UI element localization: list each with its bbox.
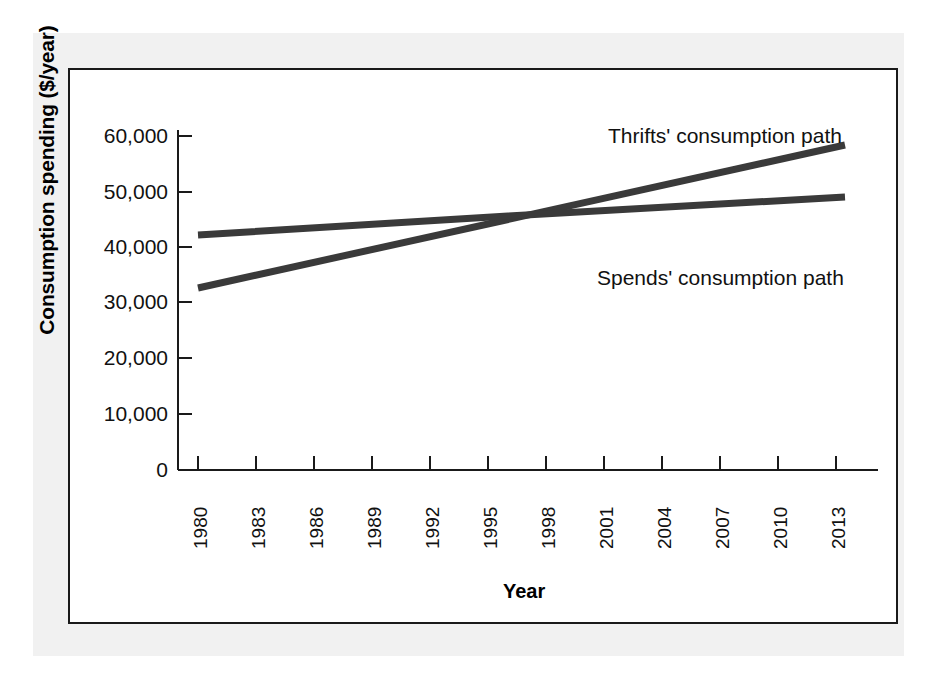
axes-group [178,130,878,470]
x-axis-title: Year [503,580,545,603]
x-tick-label: 2010 [770,507,792,549]
x-tick-label: 2007 [712,507,734,549]
x-tick-label: 1992 [422,507,444,549]
x-tick-label: 2013 [828,507,850,549]
x-tick-label: 2004 [654,507,676,549]
y-tick-label: 50,000 [58,180,168,204]
chart-canvas [0,0,937,673]
y-tick-label: 30,000 [58,290,168,314]
y-tick-label: 10,000 [58,402,168,426]
x-tick-label: 2001 [596,507,618,549]
x-tick-label: 1998 [538,507,560,549]
series-annotation-thrifts: Thrifts' consumption path [608,124,842,148]
y-tick-label: 40,000 [58,235,168,259]
x-tick-label: 1989 [364,507,386,549]
y-tick-label: 60,000 [58,124,168,148]
y-tick-label: 0 [58,458,168,482]
y-tick-label: 20,000 [58,346,168,370]
series-line-spends [198,197,845,235]
x-tick-label: 1980 [190,507,212,549]
x-tick-label: 1986 [306,507,328,549]
x-tick-label: 1995 [480,507,502,549]
series-annotation-spends: Spends' consumption path [597,266,844,290]
x-tick-marks [198,456,836,470]
figure-page: Consumption spending ($/year) [0,0,937,673]
x-tick-label: 1983 [248,507,270,549]
y-tick-marks [178,136,192,414]
